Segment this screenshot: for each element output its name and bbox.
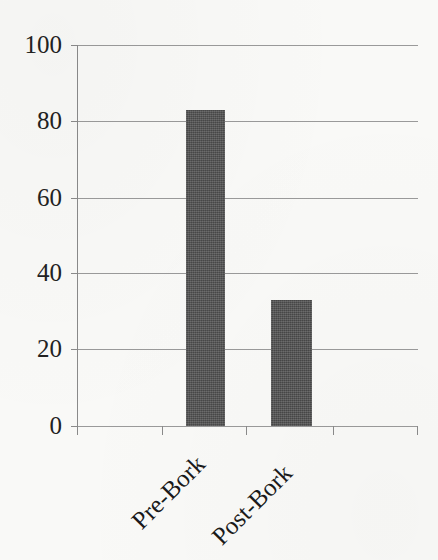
- bar-chart: 100 80 60 40 20 0 Pre-Bork Post-Bork: [0, 0, 438, 560]
- y-tick-mark-60: [71, 198, 78, 199]
- gridline-40: [77, 273, 418, 274]
- bar-pre-bork: [186, 110, 225, 426]
- y-tick-label-40: 40: [4, 260, 62, 285]
- y-tick-label-20: 20: [4, 336, 62, 361]
- y-tick-mark-20: [71, 349, 78, 350]
- y-tick-mark-40: [71, 273, 78, 274]
- gridline-20: [77, 349, 418, 350]
- gridline-baseline-0: [77, 426, 418, 427]
- x-tick-2: [246, 426, 247, 435]
- x-tick-3: [333, 426, 334, 435]
- x-tick-4: [417, 426, 418, 435]
- y-tick-label-0: 0: [4, 413, 62, 438]
- x-category-label-pre-bork: Pre-Bork: [79, 451, 211, 560]
- gridline-60: [77, 198, 418, 199]
- gridline-80: [77, 121, 418, 122]
- x-tick-1: [162, 426, 163, 435]
- y-axis-spine: [77, 45, 78, 427]
- y-tick-label-60: 60: [4, 185, 62, 210]
- y-tick-mark-100: [71, 45, 78, 46]
- y-tick-mark-0: [71, 426, 78, 427]
- bar-post-bork: [271, 300, 312, 426]
- y-tick-label-100: 100: [4, 32, 62, 57]
- x-tick-0: [77, 426, 78, 435]
- y-tick-label-80: 80: [4, 108, 62, 133]
- y-tick-mark-80: [71, 121, 78, 122]
- plot-area: [77, 45, 418, 426]
- gridline-100: [77, 45, 418, 46]
